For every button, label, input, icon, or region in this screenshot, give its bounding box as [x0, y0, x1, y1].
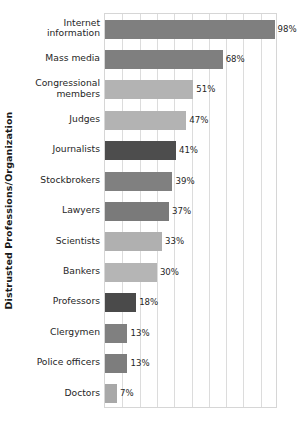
category-label-line: Professors	[16, 296, 100, 307]
category-label-line: Judges	[16, 114, 100, 125]
bar-value-label: 68%	[223, 50, 245, 69]
bar-value-label: 13%	[127, 324, 149, 343]
bar	[105, 20, 275, 39]
category-label-line: Stockbrokers	[16, 175, 100, 186]
bar	[105, 324, 127, 343]
category-label: Bankers	[16, 266, 100, 277]
category-label: Congressionalmembers	[16, 78, 100, 99]
bar-chart: Distrusted Professions/Organization Inte…	[0, 0, 305, 421]
bar	[105, 232, 162, 251]
category-label-line: Mass media	[16, 53, 100, 64]
category-label-line: Police officers	[16, 357, 100, 368]
category-label: Clergymen	[16, 327, 100, 338]
plot-area: 98%68%51%47%41%39%37%33%30%18%13%13%7%	[104, 13, 277, 408]
bar	[105, 263, 157, 282]
category-label-line: Bankers	[16, 266, 100, 277]
bar-value-label: 41%	[176, 141, 198, 160]
bar-value-label: 30%	[157, 263, 179, 282]
category-label: Doctors	[16, 388, 100, 399]
bar-value-label: 37%	[169, 202, 191, 221]
bar-value-label: 7%	[117, 384, 134, 403]
category-label: Scientists	[16, 236, 100, 247]
category-label: Internetinformation	[16, 18, 100, 39]
category-label-line: Scientists	[16, 236, 100, 247]
category-label-line: Lawyers	[16, 205, 100, 216]
bar	[105, 50, 223, 69]
category-label-line: Clergymen	[16, 327, 100, 338]
category-label: Judges	[16, 114, 100, 125]
category-label: Professors	[16, 296, 100, 307]
bar	[105, 111, 186, 130]
bar	[105, 202, 169, 221]
bar-value-label: 98%	[275, 20, 297, 39]
category-axis-labels: InternetinformationMass mediaCongression…	[16, 13, 100, 408]
category-label: Police officers	[16, 357, 100, 368]
category-label-line: information	[16, 28, 100, 39]
category-label-line: Journalists	[16, 144, 100, 155]
bars-layer: 98%68%51%47%41%39%37%33%30%18%13%13%7%	[105, 14, 276, 407]
y-axis-title: Distrusted Professions/Organization	[0, 0, 16, 421]
category-label: Mass media	[16, 53, 100, 64]
category-label: Journalists	[16, 144, 100, 155]
category-label: Lawyers	[16, 205, 100, 216]
category-label: Stockbrokers	[16, 175, 100, 186]
bar-value-label: 51%	[193, 80, 215, 99]
bar	[105, 80, 193, 99]
bar-value-label: 33%	[162, 232, 184, 251]
category-label-line: members	[16, 89, 100, 100]
bar	[105, 172, 172, 191]
bar	[105, 141, 176, 160]
bar-value-label: 39%	[172, 172, 194, 191]
category-label-line: Doctors	[16, 388, 100, 399]
bar-value-label: 13%	[127, 354, 149, 373]
bar	[105, 354, 127, 373]
bar	[105, 293, 136, 312]
bar-value-label: 47%	[186, 111, 208, 130]
bar-value-label: 18%	[136, 293, 158, 312]
bar	[105, 384, 117, 403]
